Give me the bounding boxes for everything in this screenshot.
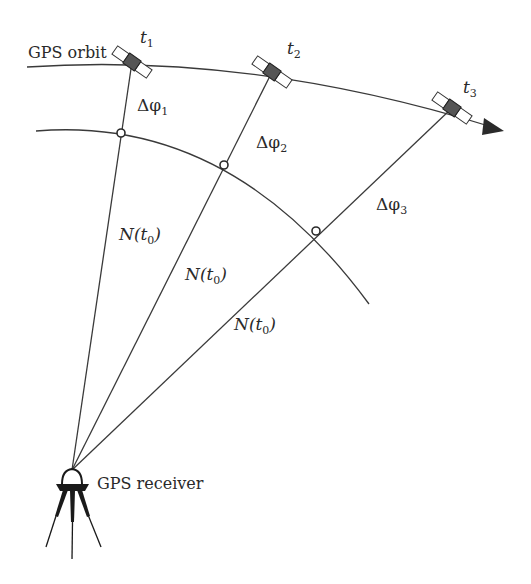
range-line-3 <box>72 108 452 470</box>
time-label-t3: t3 <box>463 77 477 100</box>
range-line-1 <box>72 62 132 470</box>
range-n-label-2: N(t0) <box>184 264 227 287</box>
delta-phi-1-label: Δφ1 <box>137 95 168 118</box>
intersection-marker-2 <box>220 161 228 169</box>
time-label-t1: t1 <box>140 27 154 50</box>
range-n-label-3: N(t0) <box>233 314 276 337</box>
satellite-icon-t1 <box>111 45 152 79</box>
delta-phi-2-label: Δφ2 <box>256 132 287 155</box>
orbit-direction-arrow-icon <box>482 118 504 135</box>
gps-receiver-label: GPS receiver <box>97 474 204 493</box>
intersection-marker-3 <box>312 227 320 235</box>
gps-orbit-label: GPS orbit <box>28 43 107 62</box>
satellite-icon-t2 <box>251 55 292 89</box>
gps-ambiguity-diagram: GPS orbit t1 t2 t3 Δφ1 Δφ2 Δφ3 N(t0) N(t… <box>0 0 531 584</box>
delta-phi-3-label: Δφ3 <box>376 194 407 217</box>
range-n-label-1: N(t0) <box>118 224 161 247</box>
time-label-t2: t2 <box>287 38 301 61</box>
gps-receiver-tripod-icon <box>46 469 101 559</box>
intersection-marker-1 <box>117 129 125 137</box>
